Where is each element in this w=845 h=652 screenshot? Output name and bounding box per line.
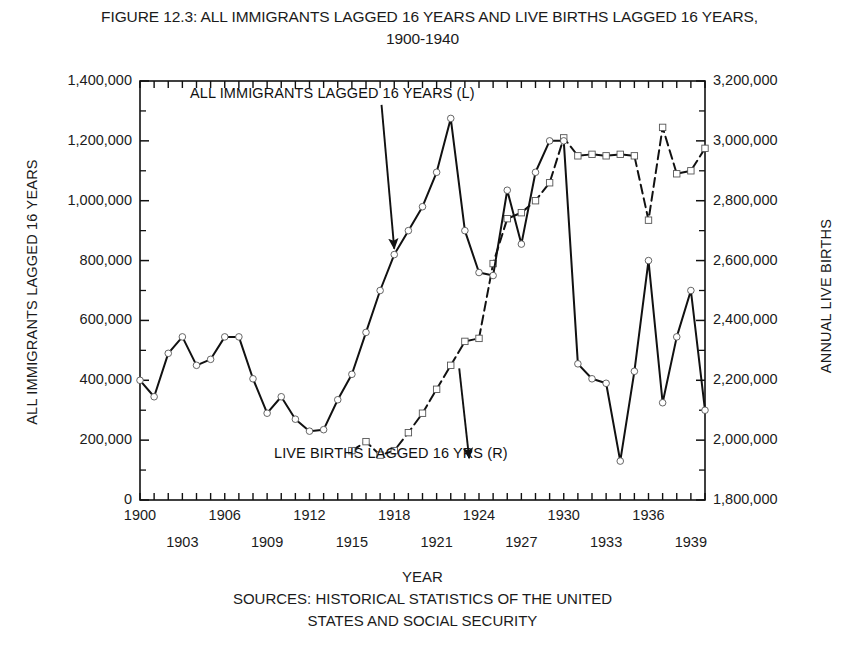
data-point-marker: [476, 335, 482, 341]
data-point-marker: [405, 429, 411, 435]
data-point-marker: [433, 386, 439, 392]
data-point-marker: [207, 356, 214, 363]
data-point-marker: [221, 334, 228, 341]
y-tick-label-right: 3,200,000: [713, 72, 833, 88]
data-point-marker: [193, 362, 200, 369]
data-point-marker: [617, 458, 624, 465]
y-tick-label-left: 1,000,000: [14, 192, 132, 208]
x-tick-label: 1918: [369, 507, 419, 523]
data-point-marker: [377, 287, 384, 294]
data-point-marker: [419, 410, 425, 416]
y-tick-label-left: 600,000: [14, 311, 132, 327]
data-point-marker: [490, 272, 497, 279]
plot-frame: [140, 81, 705, 500]
data-point-marker: [264, 410, 271, 417]
data-point-marker: [447, 115, 454, 122]
x-tick-label: 1921: [412, 534, 462, 550]
data-point-marker: [476, 269, 483, 276]
y-tick-label-right: 2,000,000: [713, 431, 833, 447]
data-point-marker: [673, 334, 680, 341]
data-point-marker: [589, 375, 596, 382]
data-point-marker: [306, 428, 313, 435]
y-tick-label-right: 2,600,000: [713, 252, 833, 268]
y-tick-label-left: 200,000: [14, 431, 132, 447]
data-point-marker: [674, 171, 680, 177]
data-point-marker: [462, 227, 469, 234]
data-point-marker: [575, 153, 581, 159]
data-point-marker: [137, 377, 144, 384]
y-tick-label-left: 800,000: [14, 252, 132, 268]
x-tick-label: 1939: [666, 534, 716, 550]
series-annotation-label: LIVE BIRTHS LAGGED 16 YRS (R): [274, 445, 508, 461]
data-point-marker: [575, 361, 582, 368]
data-point-marker: [405, 227, 412, 234]
data-point-marker: [363, 438, 369, 444]
data-point-marker: [448, 362, 454, 368]
data-point-marker: [165, 350, 172, 357]
data-point-marker: [603, 380, 610, 387]
data-point-marker: [659, 399, 666, 406]
y-tick-label-left: 1,400,000: [14, 72, 132, 88]
data-point-marker: [589, 151, 595, 157]
sources-line-2: STATES AND SOCIAL SECURITY: [0, 610, 845, 632]
data-point-marker: [334, 396, 341, 403]
data-point-marker: [518, 241, 525, 248]
figure-container: FIGURE 12.3: ALL IMMIGRANTS LAGGED 16 YE…: [0, 0, 845, 652]
y-tick-label-right: 2,400,000: [713, 311, 833, 327]
data-point-marker: [631, 368, 638, 375]
y-tick-label-right: 1,800,000: [713, 491, 833, 507]
data-point-marker: [603, 153, 609, 159]
data-point-marker: [532, 198, 538, 204]
x-tick-label: 1900: [115, 507, 165, 523]
x-tick-label: 1930: [539, 507, 589, 523]
x-tick-label: 1909: [242, 534, 292, 550]
x-tick-label: 1933: [581, 534, 631, 550]
series-annotation-label: ALL IMMIGRANTS LAGGED 16 YEARS (L): [190, 85, 475, 101]
data-point-marker: [278, 393, 285, 400]
data-point-marker: [363, 329, 370, 336]
y-tick-label-left: 0: [14, 491, 132, 507]
data-point-marker: [702, 407, 709, 414]
data-point-marker: [688, 287, 695, 294]
x-axis-label: YEAR: [0, 566, 845, 588]
data-point-marker: [560, 138, 567, 145]
x-tick-label: 1912: [285, 507, 335, 523]
y-tick-label-left: 400,000: [14, 371, 132, 387]
x-tick-label: 1915: [327, 534, 377, 550]
x-tick-label: 1906: [200, 507, 250, 523]
data-point-marker: [702, 145, 708, 151]
x-tick-label: 1924: [454, 507, 504, 523]
data-point-marker: [659, 124, 665, 130]
sources-line-1: SOURCES: HISTORICAL STATISTICS OF THE UN…: [0, 588, 845, 610]
annotation-arrow: [382, 105, 395, 249]
data-point-marker: [631, 153, 637, 159]
data-point-marker: [645, 217, 651, 223]
x-tick-label: 1903: [157, 534, 207, 550]
data-point-marker: [419, 203, 426, 210]
data-point-marker: [320, 426, 327, 433]
data-point-marker: [391, 251, 398, 258]
data-point-marker: [546, 180, 552, 186]
data-point-marker: [617, 151, 623, 157]
x-tick-label: 1927: [496, 534, 546, 550]
data-point-marker: [546, 138, 553, 145]
data-point-marker: [518, 209, 524, 215]
data-point-marker: [236, 334, 243, 341]
figure-footer: YEAR SOURCES: HISTORICAL STATISTICS OF T…: [0, 566, 845, 632]
data-point-marker: [349, 371, 356, 378]
data-point-marker: [504, 187, 511, 194]
data-point-marker: [433, 169, 440, 176]
data-point-marker: [532, 169, 539, 176]
data-point-marker: [179, 334, 186, 341]
data-point-marker: [688, 168, 694, 174]
y-tick-label-left: 1,200,000: [14, 132, 132, 148]
y-tick-label-right: 3,000,000: [713, 132, 833, 148]
data-point-marker: [504, 215, 510, 221]
y-tick-label-right: 2,800,000: [713, 192, 833, 208]
data-point-marker: [250, 375, 257, 382]
data-point-marker: [645, 257, 652, 264]
x-tick-label: 1936: [624, 507, 674, 523]
data-point-marker: [151, 393, 158, 400]
data-point-marker: [292, 416, 299, 423]
data-point-marker: [462, 338, 468, 344]
